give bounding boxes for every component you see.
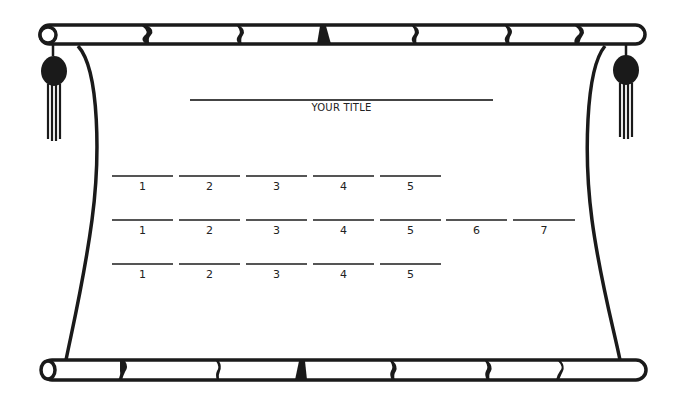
slot-number: 5 [380,224,441,237]
blank-line [313,263,374,265]
blank-line [179,263,240,265]
title-line [190,99,493,101]
title-label: YOUR TITLE [190,102,493,113]
row3-slot-4[interactable]: 4 [313,263,374,281]
blank-line [513,219,575,221]
slot-number: 2 [179,224,240,237]
slot-number: 5 [380,180,441,193]
right-edge [587,46,620,360]
row3-slot-2[interactable]: 2 [179,263,240,281]
row2-slot-5[interactable]: 5 [380,219,441,237]
blank-line [380,219,441,221]
row1-slot-2[interactable]: 2 [179,175,240,193]
slot-number: 2 [179,180,240,193]
slot-number: 6 [446,224,507,237]
blank-line [112,263,173,265]
blank-line [313,219,374,221]
row2-slot-1[interactable]: 1 [112,219,173,237]
slot-number: 3 [246,180,307,193]
left-edge [66,46,97,360]
row3-slot-3[interactable]: 3 [246,263,307,281]
slot-number: 4 [313,180,374,193]
row3-slot-1[interactable]: 1 [112,263,173,281]
bottom-rod-icon [41,360,646,380]
blank-line [246,175,307,177]
blank-line [112,175,173,177]
scroll-illustration [0,0,681,406]
blank-line [179,175,240,177]
slot-number: 3 [246,224,307,237]
blank-line [380,175,441,177]
row3-slot-5[interactable]: 5 [380,263,441,281]
slot-number: 1 [112,224,173,237]
left-tassel-icon [41,44,67,141]
row1-slot-4[interactable]: 4 [313,175,374,193]
slot-number: 4 [313,224,374,237]
row2-slot-6[interactable]: 6 [446,219,507,237]
blank-line [112,219,173,221]
row2-slot-7[interactable]: 7 [513,219,575,237]
blank-line [446,219,507,221]
blank-line [246,219,307,221]
blank-line [380,263,441,265]
blank-line [246,263,307,265]
blank-line [179,219,240,221]
row1-slot-5[interactable]: 5 [380,175,441,193]
right-tassel-icon [613,44,639,139]
slot-number: 1 [112,268,173,281]
row2-slot-3[interactable]: 3 [246,219,307,237]
row2-slot-4[interactable]: 4 [313,219,374,237]
blank-line [313,175,374,177]
slot-number: 2 [179,268,240,281]
slot-number: 4 [313,268,374,281]
slot-number: 7 [513,224,575,237]
row2-slot-2[interactable]: 2 [179,219,240,237]
slot-number: 5 [380,268,441,281]
top-rod-icon [40,25,645,44]
slot-number: 1 [112,180,173,193]
row1-slot-1[interactable]: 1 [112,175,173,193]
row1-slot-3[interactable]: 3 [246,175,307,193]
slot-number: 3 [246,268,307,281]
